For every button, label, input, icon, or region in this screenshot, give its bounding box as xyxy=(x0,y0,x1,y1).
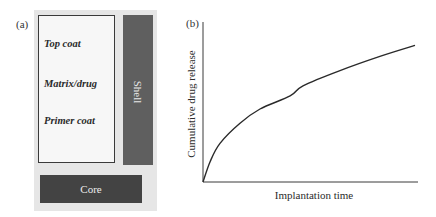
release-curve xyxy=(203,45,415,182)
x-axis-title: Implantation time xyxy=(275,189,354,201)
release-chart xyxy=(0,0,436,217)
y-axis-title: Cumulative drug release xyxy=(185,50,197,158)
